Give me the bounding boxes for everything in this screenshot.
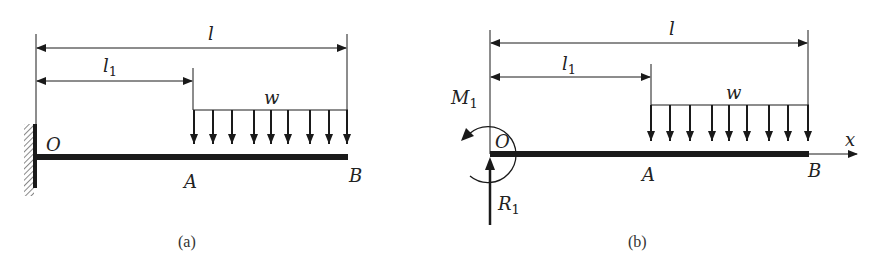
beam-diagram: l l1 w O A B (a) [0, 0, 878, 270]
panel-b: l l1 x w M1 [450, 18, 857, 251]
label-o: O [495, 131, 510, 152]
label-r1: R1 [497, 193, 520, 217]
label-b: B [348, 165, 362, 186]
panel-a: l l1 w O A B (a) [24, 23, 362, 251]
label-o: O [46, 134, 61, 155]
label-x: x [845, 129, 855, 150]
caption-b: (b) [628, 233, 647, 251]
label-l1: l1 [562, 53, 576, 77]
label-l: l [669, 18, 675, 39]
beam [490, 151, 809, 157]
label-m1: M1 [450, 87, 478, 111]
distributed-load [193, 110, 348, 144]
reaction-arrowhead-icon [485, 157, 495, 170]
beam [37, 154, 348, 160]
distributed-load [651, 105, 809, 141]
caption-a: (a) [178, 233, 196, 251]
fixed-wall [33, 124, 37, 188]
label-w: w [726, 82, 742, 103]
moment-arrowhead-icon [461, 128, 474, 141]
label-a: A [640, 164, 655, 185]
label-a: A [182, 171, 197, 192]
label-w: w [264, 87, 280, 108]
label-l: l [208, 23, 214, 44]
label-l1: l1 [103, 55, 117, 79]
label-b: B [807, 160, 821, 181]
fixed-wall-hatch [24, 124, 34, 196]
